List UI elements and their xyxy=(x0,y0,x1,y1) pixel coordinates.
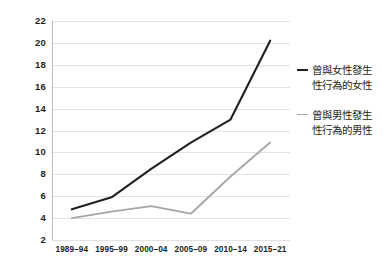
legend: 曾與女性發生 性行為的女性曾與男性發生 性行為的男性 xyxy=(297,63,390,153)
series-line-women xyxy=(72,41,270,210)
x-axis-tick-label: 1989–94 xyxy=(56,246,89,254)
legend-entry[interactable]: 曾與女性發生 性行為的女性 xyxy=(297,63,390,93)
x-axis-tick-label: 1995–99 xyxy=(95,246,128,254)
y-axis-tick-label: 8 xyxy=(2,169,46,179)
y-axis-tick-label: 12 xyxy=(2,126,46,136)
y-axis-tick-label: 14 xyxy=(2,104,46,114)
plot-area xyxy=(52,21,290,240)
y-axis-tick-labels: 222018161412108642 xyxy=(0,21,46,240)
x-axis-tick-label: 2000–04 xyxy=(135,246,168,254)
x-axis-tick-label: 2015–21 xyxy=(254,246,287,254)
x-axis-tick-label: 2010–14 xyxy=(214,246,247,254)
legend-label: 曾與女性發生 性行為的女性 xyxy=(312,63,373,93)
y-axis-tick-label: 10 xyxy=(2,147,46,157)
line-chart: 222018161412108642 1989–941995–992000–04… xyxy=(0,0,390,270)
legend-line-swatch-icon xyxy=(297,109,308,120)
y-axis-tick-label: 16 xyxy=(2,82,46,92)
y-axis-tick-label: 2 xyxy=(2,235,46,245)
x-axis-tick-labels: 1989–941995–992000–042005–092010–142015–… xyxy=(52,246,290,262)
x-axis-tick-label: 2005–09 xyxy=(175,246,208,254)
legend-label: 曾與男性發生 性行為的男性 xyxy=(312,108,373,138)
gridline xyxy=(52,240,290,241)
y-axis-tick-label: 20 xyxy=(2,38,46,48)
y-axis-tick-label: 4 xyxy=(2,213,46,223)
legend-line-swatch-icon xyxy=(297,64,308,75)
series-lines xyxy=(52,21,290,240)
y-axis-tick-label: 18 xyxy=(2,60,46,70)
y-axis-tick-label: 22 xyxy=(2,16,46,26)
y-axis-tick-label: 6 xyxy=(2,191,46,201)
legend-entry[interactable]: 曾與男性發生 性行為的男性 xyxy=(297,108,390,138)
series-line-men xyxy=(72,143,270,219)
